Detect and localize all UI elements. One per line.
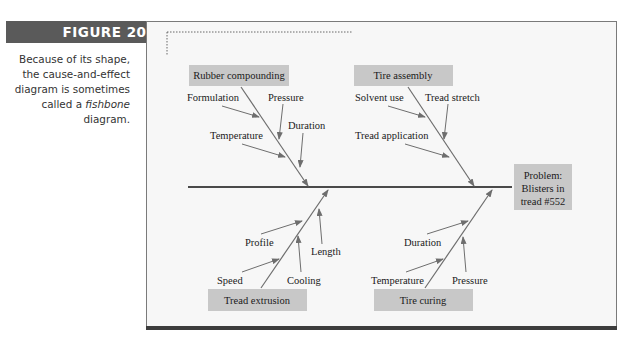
svg-text:Temperature: Temperature [371,275,424,286]
svg-text:Formulation: Formulation [187,92,240,103]
svg-text:Tread application: Tread application [355,130,429,141]
svg-text:Duration: Duration [288,120,326,131]
svg-text:Tread stretch: Tread stretch [425,92,480,103]
causes-tread-extrusion: Profile Length Speed Cooling [217,209,341,286]
svg-text:Speed: Speed [217,275,243,286]
svg-text:Cooling: Cooling [287,275,322,286]
svg-text:Temperature: Temperature [210,130,263,141]
problem-box: Problem: Blisters in tread #552 [514,164,572,210]
svg-text:Length: Length [311,246,341,257]
svg-text:Duration: Duration [404,237,442,248]
svg-text:Pressure: Pressure [268,92,304,103]
svg-text:tread #552: tread #552 [521,196,566,207]
fishbone-diagram: Rubber compounding Tire assembly Tread e… [0,0,622,342]
causes-tire-curing: Duration Temperature Pressure [371,221,488,286]
category-box-tread-extrusion: Tread extrusion [208,289,307,311]
category-box-tire-assembly: Tire assembly [354,65,453,86]
svg-text:Rubber compounding: Rubber compounding [193,70,285,81]
category-box-tire-curing: Tire curing [374,289,473,311]
svg-text:Profile: Profile [245,237,274,248]
svg-text:Tire assembly: Tire assembly [374,70,434,81]
svg-text:Tread extrusion: Tread extrusion [224,295,291,306]
svg-text:Tire curing: Tire curing [400,295,447,306]
svg-text:Problem:: Problem: [524,170,563,181]
svg-text:Solvent use: Solvent use [355,92,404,103]
causes-rubber-compounding: Formulation Pressure Temperature Duratio… [187,92,326,167]
dotted-leader [167,32,352,55]
svg-text:Blisters in: Blisters in [522,183,566,194]
category-box-rubber-compounding: Rubber compounding [189,65,289,86]
svg-text:Pressure: Pressure [452,275,488,286]
